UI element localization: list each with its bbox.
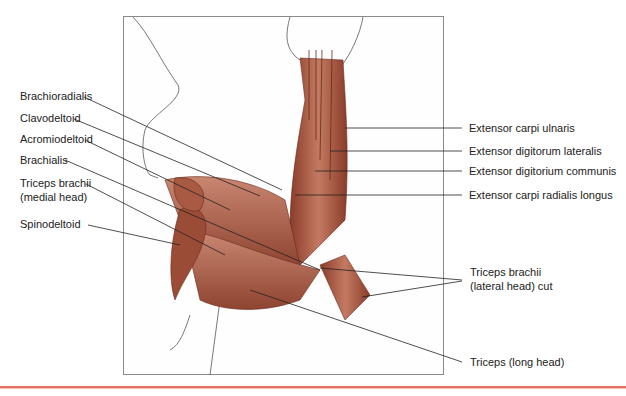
triceps-lateral-head-cut xyxy=(320,255,370,320)
label-lateral-head-cut: (lateral head) cut xyxy=(470,280,553,293)
bottom-rule-shadow xyxy=(0,388,626,389)
label-extensor-carpi-radialis-longus: Extensor carpi radialis longus xyxy=(469,189,613,202)
label-triceps-brachii-medial: Triceps brachii xyxy=(20,177,91,190)
label-brachialis: Brachialis xyxy=(20,154,68,167)
forearm-extensors xyxy=(290,58,347,265)
label-spinodeltoid: Spinodeltoid xyxy=(20,218,81,231)
label-extensor-carpi-ulnaris: Extensor carpi ulnaris xyxy=(469,122,575,135)
label-triceps-brachii-lateral: Triceps brachii xyxy=(470,266,541,279)
label-acromiodeltoid: Acromiodeltoid xyxy=(20,133,93,146)
label-extensor-digitorum-lateralis: Extensor digitorum lateralis xyxy=(469,145,602,158)
label-brachioradialis: Brachioradialis xyxy=(20,90,92,103)
label-clavodeltoid: Clavodeltoid xyxy=(20,112,81,125)
label-medial-head: (medial head) xyxy=(20,191,87,204)
label-triceps-long-head: Triceps (long head) xyxy=(470,356,564,369)
label-extensor-digitorium-communis: Extensor digitorium communis xyxy=(469,165,616,178)
